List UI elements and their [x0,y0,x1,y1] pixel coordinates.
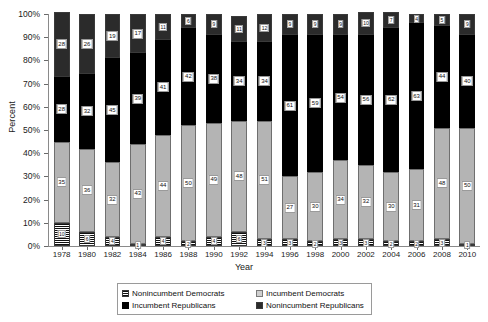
bar-value-label: 2 [388,240,394,248]
x-tick-mark [87,247,88,250]
y-tick-label: 90% [0,32,42,42]
bar-value-label: 50 [183,178,194,188]
bar-column: 250426 [181,14,197,246]
bar-value-label: 3 [287,239,293,247]
bar-column: 3325610 [358,14,374,246]
bar-value-label: 50 [462,181,473,191]
bar-value-label: 9 [211,20,217,28]
y-tick-label: 10% [0,218,42,228]
x-tick-mark [265,247,266,250]
x-tick-label: 1996 [281,250,299,259]
stacked-bar-chart: Percent 100%90%80%70%60%50%40%30%20%10%0… [0,0,488,322]
x-tick-mark [163,247,164,250]
plot-area: 1035282863632264324519143391744441112504… [49,14,480,246]
bar-column: 6363226 [79,14,95,246]
bar-value-label: 2 [186,240,192,248]
legend-item-nonincumbent-republicans: Nonincumbent Republicans [256,301,364,310]
bar-value-label: 32 [107,195,118,205]
bar-value-label: 31 [411,200,422,210]
x-tick-label: 1984 [129,250,147,259]
bar-value-label: 9 [464,20,470,28]
bar-value-label: 3 [363,239,369,247]
bar-column: 4444111 [155,14,171,246]
y-tick-mark [44,14,48,15]
bar-value-label: 4 [211,237,217,245]
x-tick-label: 1998 [306,250,324,259]
y-tick-mark [44,84,48,85]
bar-value-label: 59 [310,98,321,108]
bar-value-label: 48 [437,178,448,188]
x-tick-label: 1994 [256,250,274,259]
bar-column: 231634 [409,14,425,246]
bar-column: 230627 [383,14,399,246]
bar-value-label: 48 [234,171,245,181]
x-tick-mark [341,247,342,250]
bar-stack: 4444111 [155,14,171,246]
y-tick-mark [44,223,48,224]
bar-value-label: 44 [158,181,169,191]
legend-swatch-icon [122,290,129,297]
bar-value-label: 56 [361,95,372,105]
legend-item-incumbent-republicans: Incumbent Republicans [122,301,256,310]
bar-column: 327619 [282,14,298,246]
bar-value-label: 17 [132,29,143,39]
bar-stack: 6363226 [79,14,95,246]
bar-value-label: 3 [439,239,445,247]
bar-stack: 334549 [333,14,349,246]
bar-value-label: 10 [57,230,66,238]
bar-value-label: 34 [234,76,245,86]
bar-value-label: 4 [160,237,166,245]
legend-label: Incumbent Democrats [266,289,344,298]
bar-stack: 4324519 [105,14,121,246]
bar-stack: 231634 [409,14,425,246]
bar-column: 4324519 [105,14,121,246]
bar-value-label: 44 [437,72,448,82]
bar-stack: 10352828 [54,14,70,246]
bar-value-label: 1 [135,241,141,249]
bar-value-label: 11 [235,25,243,33]
x-tick-label: 2008 [433,250,451,259]
y-tick-mark [44,246,48,247]
bar-value-label: 9 [287,20,293,28]
bar-value-label: 7 [388,16,394,24]
legend-swatch-icon [256,302,263,309]
y-tick-label: 70% [0,79,42,89]
x-axis-title: Year [0,262,488,272]
bar-column: 334549 [333,14,349,246]
bar-value-label: 19 [107,31,118,41]
x-tick-mark [442,247,443,250]
bar-column: 449389 [206,14,222,246]
y-tick-mark [44,176,48,177]
legend-item-incumbent-democrats: Incumbent Democrats [256,289,344,298]
bar-stack: 3513412 [257,14,273,246]
bar-value-label: 61 [285,101,296,111]
bar-value-label: 40 [462,76,473,86]
x-tick-label: 1992 [230,250,248,259]
bar-column: 150409 [459,14,475,246]
x-tick-label: 2000 [332,250,350,259]
legend-item-nonincumbent-democrats: Nonincumbent Democrats [122,289,256,298]
bar-value-label: 2 [312,240,318,248]
legend-label: Nonincumbent Democrats [132,289,224,298]
y-tick-label: 80% [0,55,42,65]
y-tick-mark [44,107,48,108]
y-tick-label: 20% [0,195,42,205]
bar-value-label: 38 [208,74,219,84]
bar-value-label: 26 [82,39,93,49]
x-tick-mark [366,247,367,250]
bar-value-label: 4 [414,15,420,23]
bar-column: 348445 [434,14,450,246]
bar-value-label: 45 [107,105,118,115]
x-axis-tick-labels: 1978198019821984198619881990199219941996… [49,250,480,262]
legend-swatch-icon [256,290,263,297]
bar-value-label: 10 [362,19,371,27]
bar-value-label: 12 [260,24,269,32]
bar-stack: 6483411 [231,14,247,246]
bar-value-label: 54 [335,93,346,103]
bar-value-label: 34 [259,76,270,86]
x-tick-label: 1988 [180,250,198,259]
x-tick-mark [112,247,113,250]
bar-value-label: 3 [338,239,344,247]
bar-column: 10352828 [54,14,70,246]
bar-value-label: 34 [335,195,346,205]
